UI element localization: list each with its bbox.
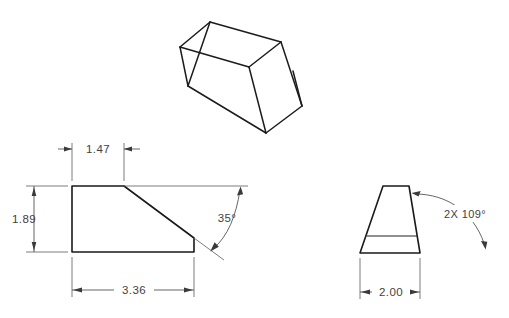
arrow-109-bottom [481, 241, 487, 250]
iso-edge-bottom-left [188, 86, 266, 133]
arrow-336-left [73, 288, 82, 293]
dim-label-2-00: 2.00 [379, 286, 403, 298]
iso-edge-top-front [180, 47, 249, 67]
dim-label-2x-109-deg: 2X 109° [444, 208, 486, 220]
arrow-147-right [124, 147, 132, 152]
iso-edge-rear-right [281, 42, 302, 106]
drawing-canvas: 1.47 1.89 3.36 [0, 0, 509, 318]
arrow-336-right [184, 288, 193, 293]
drawing-sheet: 1.47 1.89 3.36 [0, 0, 509, 318]
arrow-189-bottom [32, 242, 37, 251]
iso-edge-top-rear [210, 22, 281, 42]
front-view [72, 186, 194, 252]
iso-edge-left-vertical [180, 47, 188, 86]
dimension-35-deg: 35° [124, 186, 248, 260]
side-view-outline [360, 186, 420, 253]
arrow-200-left [361, 290, 370, 295]
arrow-109-left [412, 191, 421, 197]
front-view-outline [72, 186, 194, 252]
arrow-147-left [64, 147, 72, 152]
arrow-189-top [32, 187, 37, 196]
dim-label-35-deg: 35° [218, 212, 237, 224]
dimension-3-36: 3.36 [72, 257, 194, 298]
dim-label-3-36: 3.36 [122, 284, 146, 296]
dim-label-1-89: 1.89 [12, 213, 36, 225]
iso-edge-slant-front [249, 67, 266, 133]
dimension-109-deg: 2X 109° [412, 191, 494, 250]
arrow-35-top [237, 187, 243, 196]
dimension-1-89: 1.89 [12, 186, 68, 252]
isometric-pictorial-view [180, 22, 302, 133]
arrow-35-bottom [210, 242, 219, 251]
ext-line-slant-35 [194, 238, 224, 260]
side-view [360, 186, 420, 253]
dimension-2-00: 2.00 [360, 258, 420, 300]
iso-edge-top-front-right [249, 42, 281, 67]
arrow-200-right [410, 290, 419, 295]
dimension-1-47: 1.47 [58, 143, 140, 181]
dim-label-1-47: 1.47 [86, 143, 110, 155]
iso-edge-right-lower [266, 106, 302, 133]
